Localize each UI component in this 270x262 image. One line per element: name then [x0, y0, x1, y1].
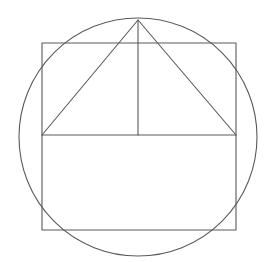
geometry-diagram	[0, 0, 270, 262]
square	[42, 43, 236, 230]
triangle-sides	[42, 20, 236, 135]
